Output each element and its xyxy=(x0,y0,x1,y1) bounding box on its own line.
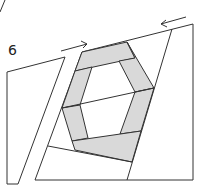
arrow-right-icon xyxy=(61,41,87,51)
arrow-left-icon xyxy=(161,17,186,27)
diagram-canvas: 6 xyxy=(0,0,198,185)
diagram-svg xyxy=(0,0,198,185)
corner-tick xyxy=(0,0,5,12)
